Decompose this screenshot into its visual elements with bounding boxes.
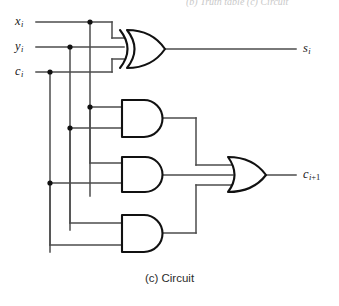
wire-layer: [36, 22, 296, 252]
output-label-sum-sub: i: [308, 46, 311, 56]
gate-layer: [120, 30, 266, 252]
input-label-x-sub: i: [21, 19, 24, 29]
and-gate-3: [122, 215, 163, 252]
junction-dot: [67, 125, 72, 130]
circuit-figure: (b) Truth table (c) Circuit: [0, 0, 339, 306]
input-label-y-sub: i: [21, 44, 24, 54]
junction-dot: [87, 104, 92, 109]
input-label-c-sub: i: [21, 69, 24, 79]
input-label-c-base: c: [15, 64, 21, 78]
output-label-carry: ci+1: [303, 167, 320, 182]
output-label-sum: si: [303, 41, 311, 56]
and-gate-2: [122, 157, 163, 192]
output-label-carry-base: c: [303, 167, 309, 181]
circuit-svg: [0, 0, 339, 306]
xor-gate: [120, 30, 165, 68]
junction-dot: [67, 44, 72, 49]
xor-gate-arc: [120, 30, 128, 68]
output-label-carry-sub-extra: +1: [311, 172, 320, 182]
xor-gate-body: [127, 30, 165, 68]
junction-dot: [47, 180, 52, 185]
input-label-x: xi: [15, 14, 23, 29]
junction-dot: [87, 19, 92, 24]
input-label-c: ci: [15, 64, 23, 79]
input-label-y-base: y: [15, 39, 21, 53]
figure-caption: (c) Circuit: [0, 272, 339, 284]
or-gate: [228, 157, 266, 192]
and-gate-1: [122, 100, 163, 137]
junction-dot: [47, 69, 52, 74]
input-label-y: yi: [15, 39, 23, 54]
input-label-x-base: x: [15, 14, 21, 28]
